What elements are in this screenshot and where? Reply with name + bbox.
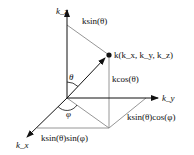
vector-label: k(k_x, k_y, k_z) — [114, 50, 173, 60]
top-projection-label: ksin(θ) — [82, 16, 107, 26]
k-point — [106, 52, 111, 57]
vertical-component-label: kcos(θ) — [112, 74, 139, 84]
theta-arc — [67, 82, 78, 87]
vector-diagram: k_z k_y k_x ksin(θ) k(k_x, k_y, k_z) kco… — [0, 0, 194, 155]
top-projection-line — [67, 25, 109, 55]
x-axis — [27, 98, 67, 137]
kz-label: k_z — [56, 6, 68, 16]
phi-label: φ — [66, 109, 71, 119]
kx-label: k_x — [16, 140, 29, 150]
ky-label: k_y — [162, 93, 175, 103]
x-component-label: ksin(θ)sin(φ) — [41, 133, 88, 143]
ground-projection-line — [67, 98, 109, 128]
theta-label: θ — [69, 72, 74, 82]
y-component-label: ksin(θ)cos(φ) — [127, 112, 176, 122]
